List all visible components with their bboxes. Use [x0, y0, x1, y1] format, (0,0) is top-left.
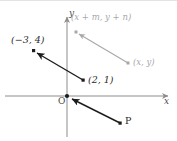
vector-translation-figure: (−3, 4) (2, 1) O P x y (x + m, y + n) (x… — [0, 0, 177, 141]
coordinate-plane-svg — [0, 1, 177, 141]
point-xmyn — [75, 31, 78, 34]
point-origin — [65, 94, 69, 98]
gray-vector-translated — [79, 34, 128, 63]
point-p — [119, 122, 122, 125]
black-vector-main — [37, 53, 83, 80]
point-neg3-4 — [32, 49, 35, 52]
black-vector-from-p — [72, 99, 120, 123]
point-2-1 — [82, 79, 85, 82]
point-xy — [127, 62, 130, 65]
